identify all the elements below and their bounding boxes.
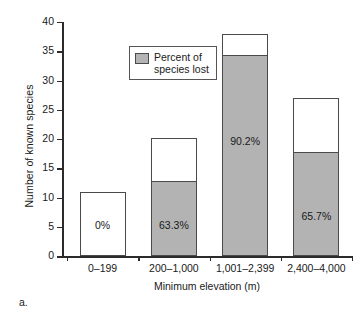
y-tick: 15	[57, 168, 62, 169]
y-tick-label: 0	[48, 249, 54, 261]
x-tick-label: 2,400–4,000	[270, 262, 361, 274]
y-tick-label: 25	[42, 103, 54, 115]
bar-percent-label: 63.3%	[151, 219, 197, 231]
bar-3: 90.2%	[222, 34, 268, 256]
y-tick-label: 10	[42, 191, 54, 203]
bar-4: 65.7%	[293, 98, 339, 256]
y-tick-label: 35	[42, 44, 54, 56]
bar-1: 0%	[80, 192, 126, 256]
y-tick: 5	[57, 227, 62, 228]
y-tick: 30	[57, 81, 62, 82]
y-tick-label: 5	[48, 220, 54, 232]
legend-swatch-species-lost	[135, 53, 149, 64]
y-tick-label: 30	[42, 74, 54, 86]
y-tick: 10	[57, 198, 62, 199]
y-tick: 40	[57, 22, 62, 23]
x-tick	[210, 256, 211, 261]
y-axis-title: Number of known species	[23, 51, 35, 241]
y-tick: 35	[57, 51, 62, 52]
plot-area: 0510152025303540 0%63.3%90.2%65.7% 0–199…	[62, 22, 347, 256]
x-axis-line	[57, 256, 353, 258]
y-tick: 0	[57, 256, 62, 257]
bar-percent-label: 65.7%	[293, 210, 339, 222]
panel-letter: a.	[19, 296, 28, 308]
bar-2: 63.3%	[151, 138, 197, 256]
bar-percent-label: 0%	[80, 219, 126, 231]
x-tick	[138, 256, 139, 261]
bar-segment-lost	[222, 55, 268, 256]
x-tick	[67, 256, 68, 261]
x-tick	[281, 256, 282, 261]
y-tick-label: 40	[42, 15, 54, 27]
y-tick-label: 20	[42, 132, 54, 144]
bar-percent-label: 90.2%	[222, 135, 268, 147]
y-tick: 25	[57, 110, 62, 111]
bar-segment-lost	[293, 152, 339, 256]
y-tick: 20	[57, 139, 62, 140]
y-tick-label: 15	[42, 161, 54, 173]
y-axis-line	[62, 22, 64, 256]
bar-chart-figure: Number of known species 0510152025303540…	[0, 0, 361, 318]
legend: Percent of species lost	[129, 46, 217, 80]
legend-label: Percent of species lost	[154, 51, 209, 75]
x-tick	[352, 256, 353, 261]
x-axis-title: Minimum elevation (m)	[62, 280, 352, 292]
